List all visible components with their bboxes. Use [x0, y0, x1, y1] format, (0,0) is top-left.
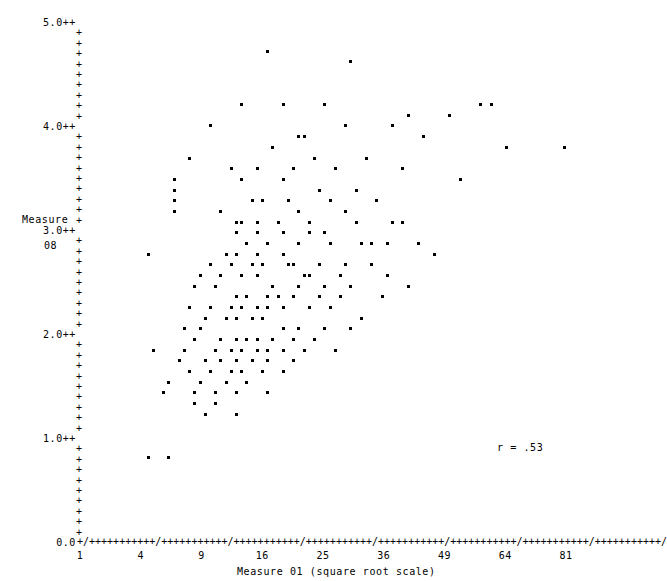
scatter-point [199, 274, 202, 277]
scatter-point [193, 338, 196, 341]
y-axis-minor-tick: + [76, 256, 83, 267]
scatter-point [240, 103, 243, 106]
scatter-point [370, 263, 373, 266]
x-axis-tick-label: 49 [425, 550, 465, 561]
scatter-point [256, 221, 259, 224]
scatter-point [313, 338, 316, 341]
scatter-point [271, 146, 274, 149]
scatter-point [214, 285, 217, 288]
scatter-point [318, 295, 321, 298]
scatter-point [297, 242, 300, 245]
y-axis-minor-tick: + [76, 235, 83, 246]
scatter-point [183, 349, 186, 352]
scatter-point [370, 242, 373, 245]
scatter-point [209, 370, 212, 373]
scatter-point [344, 124, 347, 127]
scatter-point [303, 349, 306, 352]
scatter-point [225, 381, 228, 384]
y-axis-minor-tick: + [76, 319, 83, 330]
scatter-point [199, 381, 202, 384]
scatter-point [230, 370, 233, 373]
scatter-point [292, 295, 295, 298]
scatter-point [329, 242, 332, 245]
scatter-point [329, 306, 332, 309]
y-axis-tick-label: 3.0++ [30, 225, 76, 236]
scatter-point [225, 253, 228, 256]
scatter-point [240, 370, 243, 373]
scatter-point [266, 50, 269, 53]
scatter-point [297, 285, 300, 288]
scatter-point [261, 370, 264, 373]
scatter-point [209, 306, 212, 309]
scatter-point [287, 263, 290, 266]
scatter-point [188, 370, 191, 373]
y-axis-minor-tick: + [76, 163, 83, 174]
scatter-point [563, 146, 566, 149]
scatter-point [251, 199, 254, 202]
scatter-point [235, 253, 238, 256]
scatter-point [225, 317, 228, 320]
scatter-point [261, 263, 264, 266]
scatter-point [245, 381, 248, 384]
y-axis-minor-tick: + [76, 298, 83, 309]
scatter-point [214, 391, 217, 394]
y-axis-minor-tick: + [76, 100, 83, 111]
scatter-point [193, 402, 196, 405]
y-axis-minor-tick: + [76, 506, 83, 517]
y-axis-minor-tick: + [76, 339, 83, 350]
scatter-point [230, 349, 233, 352]
scatter-point [204, 413, 207, 416]
scatter-point [344, 263, 347, 266]
scatter-point [282, 253, 285, 256]
y-axis-title-line-1: Measure [22, 214, 68, 225]
scatter-point [277, 221, 280, 224]
y-axis-tick-label: 0.0 [30, 537, 76, 548]
y-axis-minor-tick: + [76, 111, 83, 122]
scatter-point [199, 327, 202, 330]
scatter-point [355, 221, 358, 224]
y-axis-minor-tick: + [76, 69, 83, 80]
scatter-point [209, 263, 212, 266]
y-axis-minor-tick: + [76, 183, 83, 194]
y-axis-tick-label: 1.0++ [30, 433, 76, 444]
y-axis-minor-tick: + [76, 495, 83, 506]
scatter-point [349, 327, 352, 330]
y-axis-minor-tick: + [76, 90, 83, 101]
scatter-point [256, 274, 259, 277]
scatter-point [313, 157, 316, 160]
y-axis-minor-tick: + [76, 27, 83, 38]
scatter-point [167, 456, 170, 459]
scatter-point [261, 199, 264, 202]
scatter-point [251, 359, 254, 362]
scatter-point [204, 359, 207, 362]
scatter-point [271, 338, 274, 341]
scatter-point [292, 263, 295, 266]
x-axis-tick-label: 81 [546, 550, 586, 561]
y-axis-minor-tick: + [76, 246, 83, 257]
scatter-point [323, 231, 326, 234]
scatter-point [417, 242, 420, 245]
y-axis-minor-tick: + [76, 48, 83, 59]
scatter-point [235, 413, 238, 416]
scatter-point [167, 381, 170, 384]
scatter-point [334, 167, 337, 170]
scatter-point [256, 253, 259, 256]
scatter-point [214, 349, 217, 352]
scatter-point [256, 349, 259, 352]
scatter-point [235, 338, 238, 341]
scatter-point [297, 327, 300, 330]
x-axis-rule: +/+++++++++++/+++++++++++/+++++++++++/++… [77, 536, 667, 547]
scatter-point [277, 295, 280, 298]
y-axis-minor-tick: + [76, 454, 83, 465]
scatter-point [381, 295, 384, 298]
scatter-point [433, 253, 436, 256]
scatter-point [386, 242, 389, 245]
scatter-point [230, 263, 233, 266]
scatter-point [282, 231, 285, 234]
scatter-point [282, 178, 285, 181]
scatter-point [188, 157, 191, 160]
y-axis-minor-tick: + [76, 423, 83, 434]
scatter-point [479, 103, 482, 106]
scatter-point [407, 285, 410, 288]
